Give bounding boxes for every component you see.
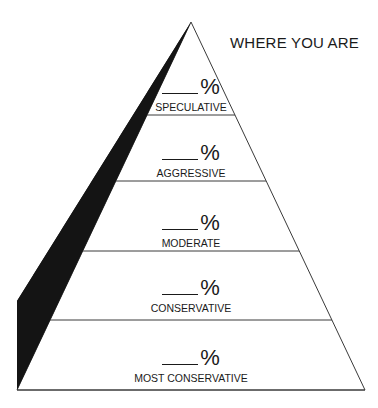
percent-sign: % (200, 74, 220, 99)
percent-sign: % (200, 275, 220, 300)
tier-speculative: % SPECULATIVE (91, 76, 291, 113)
tier-label: SPECULATIVE (91, 101, 291, 113)
tier-most-conservative: % MOST CONSERVATIVE (91, 347, 291, 384)
percent-field[interactable]: % (91, 347, 291, 371)
tier-aggressive: % AGGRESSIVE (91, 142, 291, 179)
percent-field[interactable]: % (91, 142, 291, 166)
percent-sign: % (200, 210, 220, 235)
percent-field[interactable]: % (91, 212, 291, 236)
tier-label: CONSERVATIVE (91, 302, 291, 314)
tier-moderate: % MODERATE (91, 212, 291, 249)
diagram-title: WHERE YOU ARE (230, 34, 359, 51)
percent-sign: % (200, 345, 220, 370)
percent-field[interactable]: % (91, 277, 291, 301)
tier-label: MOST CONSERVATIVE (91, 372, 291, 384)
percent-field[interactable]: % (91, 76, 291, 100)
tier-conservative: % CONSERVATIVE (91, 277, 291, 314)
tier-label: MODERATE (91, 237, 291, 249)
tier-label: AGGRESSIVE (91, 167, 291, 179)
percent-sign: % (200, 140, 220, 165)
